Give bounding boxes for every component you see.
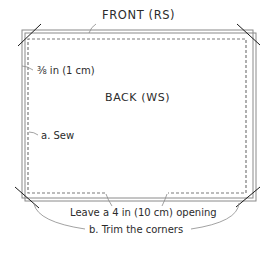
stitch-line xyxy=(28,39,246,193)
label-seam-allowance: ⅜ in (1 cm) xyxy=(37,65,95,76)
leader-opening-left xyxy=(106,194,112,206)
front-fabric-outline xyxy=(25,33,256,201)
back-fabric-outline xyxy=(22,30,253,198)
label-trim: b. Trim the corners xyxy=(89,224,183,235)
sewing-diagram: FRONT (RS) ⅜ in (1 cm) BACK (WS) a. Sew … xyxy=(0,0,275,253)
label-opening: Leave a 4 in (10 cm) opening xyxy=(70,207,217,218)
leader-opening-right xyxy=(162,194,167,206)
leader-front xyxy=(89,24,96,33)
label-back: BACK (WS) xyxy=(105,91,170,104)
trim-line-top-right xyxy=(237,24,260,45)
label-front: FRONT (RS) xyxy=(102,8,175,22)
label-sew: a. Sew xyxy=(41,130,74,141)
trim-line-top-left xyxy=(18,24,41,46)
leader-sew xyxy=(29,132,38,135)
